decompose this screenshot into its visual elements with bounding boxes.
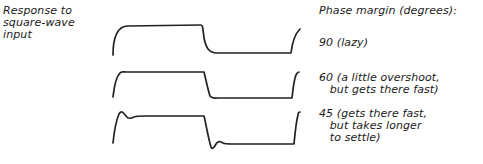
waveform-60	[113, 72, 299, 98]
waveforms	[0, 0, 483, 164]
waveform-45	[113, 112, 300, 149]
waveform-90	[113, 25, 300, 55]
